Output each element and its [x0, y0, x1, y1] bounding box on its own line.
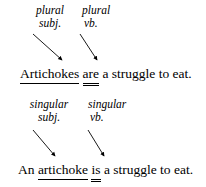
- label-singular-verb: singular vb.: [88, 98, 148, 124]
- label-singular-subject: singular subj.: [16, 98, 82, 124]
- arrow-singular-subject: [33, 130, 55, 156]
- sentence-singular-prefix: An: [18, 162, 38, 177]
- label-singular-subject-line2: subj.: [16, 111, 82, 124]
- sentence-singular-verb: is: [91, 162, 100, 178]
- sentence-plural: Artichokes are a struggle to eat.: [0, 66, 206, 82]
- label-plural-subject-line1: plural: [22, 4, 78, 17]
- sentence-plural-verb: are: [83, 66, 99, 82]
- subject-verb-agreement-figure: plural subj. plural vb. Artichokes are a…: [0, 0, 206, 187]
- label-singular-verb-line2: vb.: [88, 111, 148, 124]
- example-plural: plural subj. plural vb. Artichokes are a…: [0, 0, 206, 93]
- arrow-plural-verb: [80, 34, 97, 60]
- arrow-plural-subject: [33, 34, 62, 60]
- label-plural-subject-line2: subj.: [22, 17, 78, 30]
- label-singular-verb-line1: singular: [88, 98, 148, 111]
- sentence-singular: An artichoke is a struggle to eat.: [0, 162, 206, 178]
- label-plural-verb-line2: vb.: [82, 17, 132, 30]
- label-plural-verb: plural vb.: [82, 4, 132, 30]
- example-singular: singular subj. singular vb. An artichoke…: [0, 94, 206, 187]
- label-plural-verb-line1: plural: [82, 4, 132, 17]
- sentence-plural-tail: a struggle to eat.: [99, 66, 192, 81]
- label-plural-subject: plural subj.: [22, 4, 78, 30]
- sentence-plural-subject: Artichokes: [20, 66, 79, 82]
- sentence-singular-subject: artichoke: [38, 162, 88, 178]
- label-singular-subject-line1: singular: [16, 98, 82, 111]
- sentence-singular-tail: a struggle to eat.: [101, 162, 194, 177]
- arrow-singular-verb: [88, 130, 104, 156]
